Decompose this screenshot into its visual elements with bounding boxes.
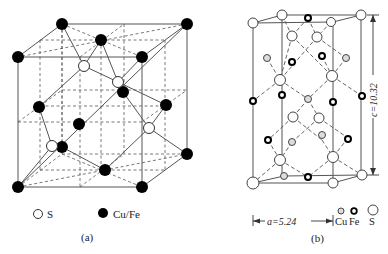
atoms-b	[247, 10, 367, 189]
caption-b: (b)	[311, 232, 324, 245]
c-lattice-label: c=10.32	[368, 83, 379, 117]
crystal-structure-figure: S Cu/Fe (a)	[0, 0, 388, 254]
caption-a: (a)	[81, 231, 94, 244]
legend-label-fe: Fe	[349, 216, 360, 227]
metal-legend-icon	[98, 208, 108, 218]
legend-label-s-b: S	[369, 216, 375, 227]
copper-legend-icon	[338, 208, 344, 214]
diagram-a: S Cu/Fe (a)	[12, 18, 193, 244]
legend-label-cu: Cu	[335, 216, 348, 227]
diagram-b: c=10.32 a=5.24 Cu Fe S (b)	[247, 10, 379, 245]
legend-label-s: S	[47, 208, 53, 220]
sulfur-legend-icon-b	[368, 205, 378, 215]
legend-label-cu-fe: Cu/Fe	[113, 208, 140, 220]
a-lattice-label: a=5.24	[267, 216, 296, 227]
legend-a: S Cu/Fe	[34, 208, 141, 220]
iron-legend-icon	[351, 208, 357, 214]
legend-b: Cu Fe S	[335, 205, 378, 227]
sulfur-legend-icon	[34, 210, 43, 219]
